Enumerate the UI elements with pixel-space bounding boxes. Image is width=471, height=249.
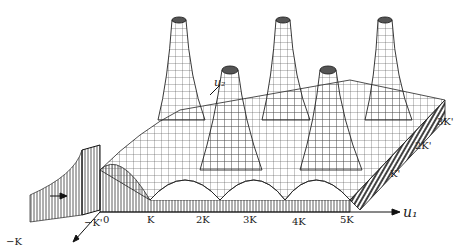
tick-minus-k-prime: −K' [84, 217, 103, 228]
tick-2k-prime: 2K' [415, 140, 432, 151]
surface-plot [0, 0, 471, 249]
poles-back [158, 17, 412, 120]
tick-3k-prime: 3K' [437, 116, 454, 127]
tick-5k: 5K [340, 214, 354, 225]
tick-k: K [147, 214, 154, 225]
axis-label-u1: u₁ [403, 204, 418, 220]
tick-2k: 2K [196, 214, 210, 225]
tick-0: 0 [103, 214, 109, 225]
tick-3k: 3K [243, 214, 257, 225]
tick-minus-k: −K [6, 236, 22, 247]
tick-4k: 4K [292, 216, 306, 227]
axis-label-u2: u₂ [214, 76, 226, 89]
left-pillar [82, 145, 100, 215]
tick-k-prime: K' [390, 168, 400, 179]
